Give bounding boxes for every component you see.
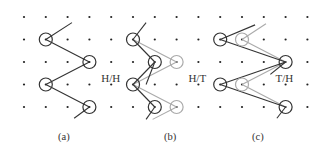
tiling-diagram-figure: H/H H/T T/H (a) (b) (c) — [0, 0, 324, 152]
lattice-dot — [197, 16, 199, 18]
lattice-dot — [306, 106, 308, 108]
lattice-dot — [306, 38, 308, 40]
panel-c-line-dark — [220, 40, 285, 63]
panel-b-line-dark — [133, 62, 155, 85]
lattice-dot — [241, 106, 243, 108]
lattice-dot — [23, 61, 25, 63]
lattice-dot — [197, 106, 199, 108]
panel-b-line-dark — [133, 40, 155, 63]
panel-c-line-dark — [220, 85, 285, 108]
panel-a-line-dark — [46, 62, 90, 85]
panel-c-line-gray — [242, 85, 286, 108]
lattice-dot — [241, 16, 243, 18]
lattice-dot — [285, 16, 287, 18]
panel-a-line-dark — [46, 23, 72, 40]
lattice-dot — [23, 106, 25, 108]
panel-a-caption: (a) — [58, 131, 70, 143]
lattice-dot — [285, 38, 287, 40]
lattice-dot — [132, 106, 134, 108]
lattice-dot — [263, 16, 265, 18]
lattice-dot — [263, 61, 265, 63]
lattice-dot — [88, 83, 90, 85]
panel-b-label: H/T — [188, 72, 206, 84]
lattice-dot — [88, 16, 90, 18]
lattice-dot — [241, 61, 243, 63]
lattice-dot — [219, 61, 221, 63]
panel-c-caption: (c) — [252, 131, 264, 143]
lattice-dot — [176, 16, 178, 18]
lattice-dot — [154, 83, 156, 85]
lattice-dot — [45, 106, 47, 108]
lattice-dot — [197, 38, 199, 40]
lattice-dot — [154, 38, 156, 40]
lattice-dot — [219, 16, 221, 18]
lattice-dot — [45, 16, 47, 18]
panel-b-line-dark — [146, 62, 155, 85]
lattice-dot — [67, 16, 69, 18]
panel-c-line-gray — [242, 24, 266, 40]
panel-captions: (a) (b) (c) — [58, 131, 264, 143]
lattice-dot — [132, 16, 134, 18]
lattice-dot — [110, 61, 112, 63]
panel-b-caption: (b) — [164, 131, 177, 143]
panel-b-line-gray — [133, 62, 177, 85]
panel-b-line-gray — [133, 85, 177, 108]
lattice-dot — [23, 16, 25, 18]
panel-labels: H/H H/T T/H — [101, 72, 293, 84]
lattice-dot — [263, 38, 265, 40]
panel-c-line-dark — [220, 25, 255, 40]
panel-c-line-gray — [242, 40, 286, 63]
path-lines — [46, 23, 286, 120]
panel-c-line-dark — [277, 107, 286, 118]
lattice-dot — [306, 83, 308, 85]
lattice-dot — [132, 61, 134, 63]
lattice-dot — [306, 61, 308, 63]
panel-a-line-dark — [46, 85, 90, 108]
lattice-dot — [23, 83, 25, 85]
panel-a-label: H/H — [101, 72, 120, 84]
lattice-dot — [67, 61, 69, 63]
lattice-dot — [88, 38, 90, 40]
lattice-dot — [197, 61, 199, 63]
lattice-dot — [306, 16, 308, 18]
lattice-dot — [154, 16, 156, 18]
lattice-dot — [176, 38, 178, 40]
lattice-dot — [219, 106, 221, 108]
lattice-dot — [45, 61, 47, 63]
lattice-dot — [67, 83, 69, 85]
panel-a-line-dark — [46, 40, 90, 63]
panel-c-label: T/H — [276, 72, 294, 84]
lattice-dot — [263, 106, 265, 108]
lattice-dot — [110, 16, 112, 18]
lattice-dot — [67, 106, 69, 108]
lattice-dot — [67, 38, 69, 40]
lattice-dot — [110, 38, 112, 40]
panel-b-line-dark — [133, 85, 155, 108]
lattice-dot — [176, 83, 178, 85]
lattice-dot — [110, 106, 112, 108]
panel-b-line-gray — [133, 40, 177, 63]
lattice-dot — [263, 83, 265, 85]
lattice-dot — [23, 38, 25, 40]
